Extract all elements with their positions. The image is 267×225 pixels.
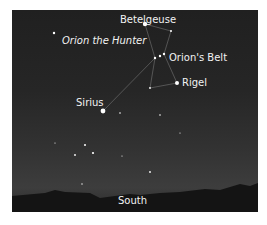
betelgeuse-label: Betelgeuse bbox=[120, 15, 176, 25]
belt-label: Orion's Belt bbox=[169, 53, 227, 63]
sirius-label: Sirius bbox=[76, 98, 104, 108]
south-label: South bbox=[118, 196, 147, 206]
rigel-label: Rigel bbox=[182, 78, 207, 88]
constellation-label: Orion the Hunter bbox=[62, 36, 146, 46]
night-sky-photo: Betelgeuse Orion the Hunter Orion's Belt… bbox=[12, 10, 258, 212]
